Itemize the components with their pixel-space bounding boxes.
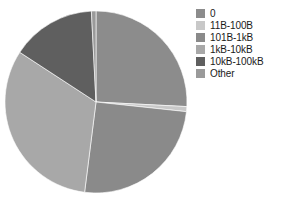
legend-item-0[interactable]: 0 <box>196 7 288 19</box>
legend-label-1: 11B-100B <box>210 20 253 31</box>
legend-item-2[interactable]: 101B-1kB <box>196 31 288 43</box>
legend-label-4: 10kB-100kB <box>210 56 263 67</box>
legend-label-5: Other <box>210 68 235 79</box>
pie-plot-area <box>0 0 200 202</box>
pie-chart-figure: 0 11B-100B 101B-1kB 1kB-10kB 10kB-100kB … <box>0 0 288 202</box>
legend-label-0: 0 <box>210 8 215 19</box>
legend-label-3: 1kB-10kB <box>210 44 253 55</box>
legend-swatch-icon-2 <box>196 33 205 42</box>
legend-label-2: 101B-1kB <box>210 32 253 43</box>
pie-slice-2[interactable] <box>85 102 187 193</box>
legend-item-5[interactable]: Other <box>196 67 288 79</box>
legend-swatch-icon-1 <box>196 21 205 30</box>
legend-item-1[interactable]: 11B-100B <box>196 19 288 31</box>
legend-item-3[interactable]: 1kB-10kB <box>196 43 288 55</box>
chart-legend: 0 11B-100B 101B-1kB 1kB-10kB 10kB-100kB … <box>196 7 288 79</box>
legend-swatch-icon-0 <box>196 9 205 18</box>
legend-swatch-icon-5 <box>196 69 205 78</box>
pie-slice-0[interactable] <box>96 11 187 107</box>
legend-item-4[interactable]: 10kB-100kB <box>196 55 288 67</box>
pie-svg <box>0 0 200 202</box>
legend-swatch-icon-3 <box>196 45 205 54</box>
pie-slice-group <box>5 11 187 193</box>
legend-swatch-icon-4 <box>196 57 205 66</box>
